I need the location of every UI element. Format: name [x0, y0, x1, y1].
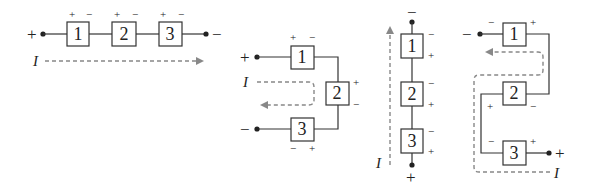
element-label: 3	[510, 143, 519, 163]
element-label: 1	[408, 36, 417, 56]
polarity-mark: −	[428, 77, 434, 89]
polarity-mark: −	[353, 98, 359, 110]
current-direction-arrow	[257, 82, 314, 105]
element-label: 1	[510, 24, 519, 44]
polarity-mark: +	[428, 49, 434, 61]
terminal-a-right: −	[212, 25, 222, 44]
polarity-mark: −	[309, 31, 315, 43]
polarity-mark: +	[428, 145, 434, 157]
polarity-mark: −	[488, 135, 494, 147]
polarity-mark: +	[428, 98, 434, 110]
terminal-c-bottom: +	[406, 168, 416, 187]
polarity-mark: +	[487, 100, 493, 112]
terminal-dot	[254, 126, 259, 131]
terminal-d-bottom: +	[555, 144, 565, 163]
element-label: 2	[408, 84, 417, 104]
element-label: 2	[333, 83, 342, 103]
polarity-mark: −	[530, 100, 536, 112]
polarity-mark: −	[86, 8, 92, 20]
polarity-mark: +	[160, 8, 166, 20]
polarity-mark: −	[290, 142, 296, 154]
polarity-mark: −	[428, 28, 434, 40]
terminal-b-bottom: −	[240, 120, 250, 139]
terminal-b-top: +	[240, 48, 250, 67]
diagram-a-horizontal: + 1 2 3 − + − + − + − I	[27, 8, 222, 69]
current-label: I	[242, 74, 249, 90]
terminal-a-left: +	[27, 25, 37, 44]
element-label: 3	[166, 24, 175, 44]
current-label: I	[32, 53, 39, 69]
element-label: 3	[408, 131, 417, 151]
element-label: 2	[510, 83, 519, 103]
current-label: I	[553, 165, 560, 181]
polarity-mark: +	[309, 142, 315, 154]
polarity-mark: −	[428, 125, 434, 137]
current-label: I	[375, 155, 382, 171]
element-label: 3	[298, 119, 307, 139]
terminal-dot	[409, 162, 414, 167]
polarity-mark: +	[114, 8, 120, 20]
polarity-mark: +	[530, 135, 536, 147]
element-label: 1	[74, 24, 83, 44]
element-label: 1	[298, 47, 307, 67]
polarity-mark: −	[488, 16, 494, 28]
polarity-mark: −	[178, 8, 184, 20]
terminal-dot	[546, 150, 551, 155]
diagram-c-vertical: − 1 2 3 + − + − + − + I	[375, 3, 434, 187]
terminal-dot	[203, 31, 208, 36]
element-label: 2	[120, 24, 129, 44]
polarity-mark: +	[353, 76, 359, 88]
polarity-mark: +	[290, 31, 296, 43]
polarity-mark: −	[132, 8, 138, 20]
polarity-mark: +	[530, 16, 536, 28]
diagram-b-folded: + 1 2 3 − + − + − − + I	[240, 31, 359, 154]
circuit-figure: + 1 2 3 − + − + − + − I + 1 2 3	[0, 0, 592, 188]
diagram-d-serpentine: − 1 2 3 + − + + − − + I	[462, 16, 565, 181]
terminal-d-top: −	[462, 25, 472, 44]
polarity-mark: +	[69, 8, 75, 20]
terminal-c-top: −	[407, 3, 417, 22]
